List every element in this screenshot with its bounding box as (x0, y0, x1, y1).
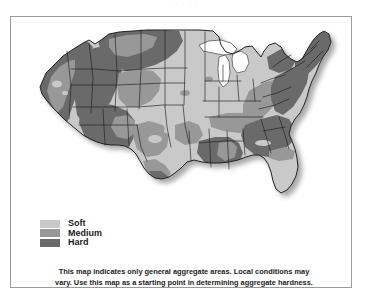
zone-soft-inclusion-tx (148, 135, 162, 143)
zone-soft-inclusion-ca2 (62, 91, 68, 95)
legend-swatch-soft (40, 220, 60, 228)
legend-swatch-medium (40, 229, 60, 237)
zone-soft-inclusion-ca (52, 81, 62, 88)
legend-swatch-hard (40, 239, 60, 247)
caption-line-2: vary. Use this map as a starting point i… (55, 278, 313, 289)
legend-label-soft: Soft (68, 219, 86, 228)
zone-medium-black-hills (140, 72, 154, 82)
figure-frame: United States aggregate hardness map (10, 16, 352, 288)
map-body (37, 30, 331, 193)
legend-label-hard: Hard (68, 238, 89, 247)
legend-item-hard: Hard (40, 238, 160, 248)
legend-item-medium: Medium (40, 229, 160, 239)
top-clipped-text: · · · · · (0, 0, 368, 9)
map-svg: United States aggregate hardness map (23, 21, 341, 226)
zone-medium-missouri-inclusion (180, 90, 190, 96)
map-legend: Soft Medium Hard (40, 219, 160, 248)
caption-line-1: This map indicates only general aggregat… (55, 267, 313, 278)
lake-michigan (218, 55, 230, 87)
map-caption: This map indicates only general aggregat… (55, 267, 313, 288)
us-aggregate-hardness-map: United States aggregate hardness map (23, 21, 341, 226)
